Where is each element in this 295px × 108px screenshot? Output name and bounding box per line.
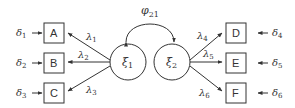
error-delta1: δ1 <box>16 27 42 40</box>
svg-text:λ3: λ3 <box>85 84 97 97</box>
svg-text:δ3: δ3 <box>16 87 27 100</box>
indicator-B: B <box>44 53 64 73</box>
svg-text:δ1: δ1 <box>16 27 27 40</box>
svg-text:δ2: δ2 <box>16 57 27 70</box>
loading-lambda6: λ6 <box>190 66 222 100</box>
svg-text:ξ1: ξ1 <box>122 56 133 70</box>
indicator-C: C <box>44 83 64 103</box>
loading-lambda1: λ1 <box>68 31 110 60</box>
indicator-A: A <box>44 23 64 43</box>
svg-text:λ5: λ5 <box>202 48 214 61</box>
error-delta3: δ3 <box>16 87 42 100</box>
error-delta6: δ6 <box>258 87 283 100</box>
loading-lambda5: λ5 <box>190 48 222 62</box>
phi21-label: φ21 <box>141 4 159 19</box>
svg-text:D: D <box>232 27 240 39</box>
error-delta5: δ5 <box>258 57 283 70</box>
svg-text:C: C <box>50 87 58 99</box>
covariance-arc: φ21 <box>126 4 174 42</box>
indicator-E: E <box>226 53 246 73</box>
svg-text:ξ2: ξ2 <box>166 56 177 70</box>
error-delta4: δ4 <box>258 27 283 40</box>
svg-text:E: E <box>232 57 239 69</box>
svg-text:λ6: λ6 <box>198 87 210 100</box>
svg-text:B: B <box>50 57 57 69</box>
svg-text:δ4: δ4 <box>272 27 283 40</box>
indicator-F: F <box>226 83 246 103</box>
svg-text:A: A <box>50 27 58 39</box>
cfa-diagram: φ21 ξ1 ξ2 A B C D E F δ1 δ2 <box>0 0 295 108</box>
latent-factor-xi1: ξ1 <box>110 44 146 80</box>
svg-text:δ5: δ5 <box>272 57 283 70</box>
svg-text:λ1: λ1 <box>85 31 97 44</box>
svg-text:F: F <box>232 87 239 99</box>
svg-text:λ4: λ4 <box>196 30 208 43</box>
indicator-D: D <box>226 23 246 43</box>
svg-text:λ2: λ2 <box>77 49 89 62</box>
latent-factor-xi2: ξ2 <box>154 44 190 80</box>
svg-text:δ6: δ6 <box>272 87 283 100</box>
error-delta2: δ2 <box>16 57 42 70</box>
loading-lambda3: λ3 <box>68 66 110 97</box>
